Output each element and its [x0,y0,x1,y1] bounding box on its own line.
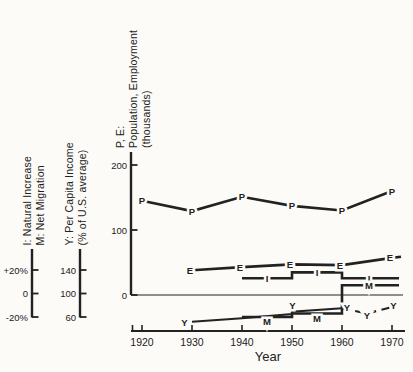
series-marker-P: P [289,200,296,211]
series-marker-M: M [313,313,321,324]
series-marker-E: E [287,259,293,270]
tick-label: 60 [65,312,76,323]
series-marker-E: E [237,262,243,273]
statistical-figure: I: Natural Increase M: Net Migration Y: … [0,0,413,372]
series-marker-M: M [263,316,271,327]
axis-pe: 2001000 [111,152,137,301]
x-tick-label: 1950 [280,336,304,348]
tick-label: 0 [122,290,127,301]
series-E [192,257,401,271]
series-marker-Y: Y [181,317,188,328]
series-marker-P: P [339,205,346,216]
series-marker-I: I [266,273,269,284]
series-marker-M: M [365,280,373,291]
series-marker-I: I [316,267,319,278]
tick-label: 0 [23,288,28,299]
x-tick-label: 1960 [330,336,354,348]
x-axis: 192019301940195019601970Year [130,325,405,364]
tick-label: 140 [60,265,76,276]
series-marker-E: E [187,265,193,276]
series-marker-E: E [337,260,343,271]
x-tick-label: 1930 [180,336,204,348]
tick-label: -20% [6,312,29,323]
series-marker-P: P [139,195,146,206]
series-marker-E: E [387,252,393,263]
tick-label: 100 [60,288,76,299]
series-marker-P: P [239,191,246,202]
axis-income: 14010060 [60,249,86,323]
series-P [142,191,392,211]
x-tick-label: 1970 [380,336,404,348]
series-marker-Y: Y [390,300,397,311]
x-tick-label: 1920 [130,336,154,348]
x-axis-label: Year [255,349,282,364]
series-marker-P: P [189,206,196,217]
axis-im: +20%0-20% [3,249,38,323]
series-marker-Y: Y [344,302,351,313]
x-tick-label: 1940 [230,336,254,348]
series-marker-Y: Y [289,300,296,311]
tick-label: 200 [111,160,127,171]
tick-label: 100 [111,225,127,236]
tick-label: +20% [3,265,28,276]
plot-area: +20%0-20%1401006020010001920193019401950… [0,0,413,372]
series-marker-P: P [389,186,396,197]
series-marker-Y: Y [364,310,371,321]
